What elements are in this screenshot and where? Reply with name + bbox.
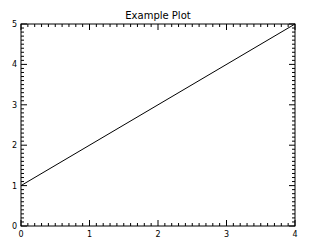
series-line	[21, 24, 295, 186]
series-group	[21, 24, 295, 186]
x-tick-label: 0	[18, 230, 23, 239]
y-tick-label: 1	[12, 182, 17, 191]
chart-title: Example Plot	[125, 10, 190, 21]
y-tick-label: 5	[12, 20, 17, 29]
tick-labels-group: 01234012345	[12, 20, 298, 239]
y-tick-label: 4	[12, 60, 17, 69]
plot-frame	[21, 24, 295, 226]
x-tick-label: 1	[87, 230, 92, 239]
y-tick-label: 3	[12, 101, 17, 110]
ticks-group	[21, 24, 295, 226]
y-tick-label: 2	[12, 141, 17, 150]
x-tick-label: 4	[292, 230, 297, 239]
y-tick-label: 0	[12, 222, 17, 231]
chart: Example Plot 01234012345	[0, 0, 312, 251]
x-tick-label: 3	[224, 230, 229, 239]
x-tick-label: 2	[155, 230, 160, 239]
